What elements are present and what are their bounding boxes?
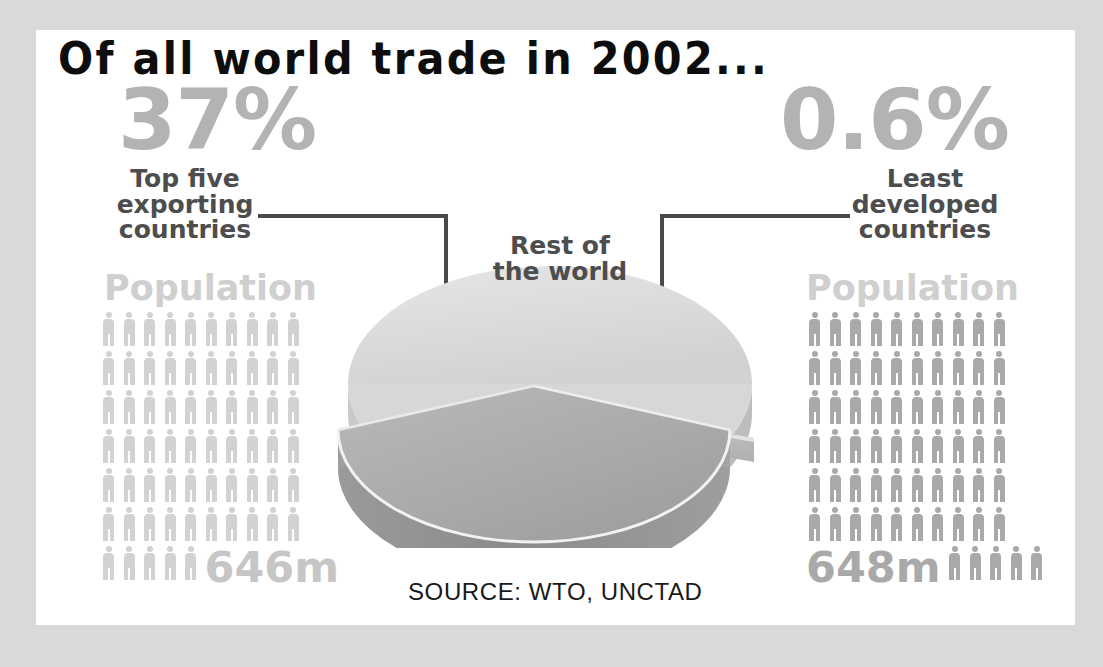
person-icon	[967, 546, 984, 580]
person-icon	[100, 546, 117, 580]
person-icon	[888, 390, 905, 424]
person-icon	[1008, 546, 1025, 580]
person-icon	[827, 468, 844, 502]
right-population-pictogram: 648m	[806, 312, 1045, 580]
person-icon	[121, 390, 138, 424]
pie-center-label-line2: the world	[470, 259, 650, 285]
pictogram-row-total: 646m	[100, 546, 339, 580]
person-icon	[868, 312, 885, 346]
person-icon	[847, 429, 864, 463]
person-icon	[970, 351, 987, 385]
person-icon	[888, 351, 905, 385]
person-icon	[162, 507, 179, 541]
pictogram-row	[806, 390, 1045, 424]
pictogram-row	[806, 468, 1045, 502]
person-icon	[121, 429, 138, 463]
person-icon	[141, 429, 158, 463]
person-icon	[909, 390, 926, 424]
left-percent-value: 37%	[118, 78, 316, 162]
person-icon	[244, 312, 261, 346]
person-icon	[950, 312, 967, 346]
pictogram-row	[100, 429, 339, 463]
person-icon	[827, 429, 844, 463]
person-icon	[203, 312, 220, 346]
person-icon	[806, 468, 823, 502]
person-icon	[909, 468, 926, 502]
person-icon	[100, 312, 117, 346]
person-icon	[223, 468, 240, 502]
person-icon	[970, 507, 987, 541]
left-population-total: 646m	[205, 552, 340, 582]
source-note: SOURCE: WTO, UNCTAD	[408, 578, 703, 606]
person-icon	[991, 312, 1008, 346]
person-icon	[929, 351, 946, 385]
person-icon	[868, 507, 885, 541]
person-icon	[909, 351, 926, 385]
person-icon	[264, 390, 281, 424]
pictogram-row	[100, 351, 339, 385]
person-icon	[264, 429, 281, 463]
person-icon	[950, 351, 967, 385]
person-icon	[847, 468, 864, 502]
person-icon	[141, 507, 158, 541]
person-icon	[121, 546, 138, 580]
person-icon	[827, 390, 844, 424]
person-icon	[264, 351, 281, 385]
person-icon	[929, 468, 946, 502]
person-icon	[929, 312, 946, 346]
person-icon	[285, 312, 302, 346]
person-icon	[182, 312, 199, 346]
person-icon	[264, 468, 281, 502]
person-icon	[806, 390, 823, 424]
person-icon	[223, 429, 240, 463]
right-caption-line3: countries	[800, 217, 1050, 243]
person-icon	[991, 507, 1008, 541]
person-icon	[929, 390, 946, 424]
person-icon	[141, 390, 158, 424]
pictogram-row	[806, 351, 1045, 385]
person-icon	[182, 507, 199, 541]
person-icon	[950, 468, 967, 502]
person-icon	[244, 390, 261, 424]
person-icon	[806, 351, 823, 385]
person-icon	[987, 546, 1004, 580]
person-icon	[162, 429, 179, 463]
person-icon	[162, 390, 179, 424]
person-icon	[223, 507, 240, 541]
person-icon	[991, 351, 1008, 385]
person-icon	[868, 390, 885, 424]
person-icon	[868, 429, 885, 463]
right-population-total: 648m	[806, 552, 941, 582]
person-icon	[264, 507, 281, 541]
person-icon	[162, 312, 179, 346]
person-icon	[203, 390, 220, 424]
pie-center-label-line1: Rest of	[470, 233, 650, 259]
person-icon	[121, 312, 138, 346]
person-icon	[285, 429, 302, 463]
person-icon	[929, 429, 946, 463]
person-icon	[970, 390, 987, 424]
right-caption: Least developed countries	[800, 166, 1050, 243]
person-icon	[223, 351, 240, 385]
left-caption-line3: countries	[60, 217, 310, 243]
person-icon	[909, 312, 926, 346]
person-icon	[868, 468, 885, 502]
person-icon	[970, 468, 987, 502]
person-icon	[888, 507, 905, 541]
person-icon	[203, 351, 220, 385]
person-icon	[285, 390, 302, 424]
person-icon	[100, 390, 117, 424]
person-icon	[244, 507, 261, 541]
person-icon	[223, 390, 240, 424]
pictogram-row	[806, 507, 1045, 541]
person-icon	[100, 468, 117, 502]
person-icon	[991, 390, 1008, 424]
person-icon	[244, 429, 261, 463]
person-icon	[991, 468, 1008, 502]
person-icon	[827, 312, 844, 346]
person-icon	[950, 507, 967, 541]
person-icon	[991, 429, 1008, 463]
person-icon	[182, 468, 199, 502]
pictogram-row	[100, 312, 339, 346]
person-icon	[244, 468, 261, 502]
